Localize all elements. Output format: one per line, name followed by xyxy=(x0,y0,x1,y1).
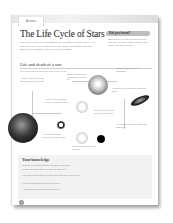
sun-like-star-icon xyxy=(76,101,88,113)
question-item: 1. Name the stage a star like our Sun wi… xyxy=(22,168,148,171)
textbook-page: Activities The Life Cycle of Stars Our S… xyxy=(12,15,158,205)
did-you-know-box: Did you know? Stars are born in vast clo… xyxy=(106,31,150,48)
diagram-caption: A supernova explosion blasts matter into… xyxy=(112,87,148,92)
diagram-caption: The white dwarf slowly cools and fades. xyxy=(72,145,98,150)
diagram-caption: Very massive stars may collapse into a b… xyxy=(116,123,148,128)
question-item: 4. Suggest why some stars form black hol… xyxy=(22,188,148,191)
diagram-caption: A red giant sheds outer layers leaving a… xyxy=(42,133,66,138)
diagram-caption: A star like our Sun shines steadily for … xyxy=(45,98,69,103)
your-knowledge-title: Your knowledge xyxy=(22,157,50,162)
section-title: Life and death of a star xyxy=(20,62,62,67)
page-number: 8 xyxy=(19,200,24,205)
your-knowledge-intro: Complete the activities using the inform… xyxy=(22,164,148,166)
did-you-know-body: Stars are born in vast clouds of gas and… xyxy=(106,36,150,48)
question-item: 2. Describe how the path of a massive st… xyxy=(22,174,148,177)
activities-tab[interactable]: Activities xyxy=(18,17,44,26)
diagram-caption: A nebula: a cloud of gas and dust collap… xyxy=(20,77,46,82)
nebula-star-icon xyxy=(8,113,38,143)
star-lifecycle-diagram: A nebula: a cloud of gas and dust collap… xyxy=(12,73,158,153)
diagram-caption: The remaining core may become a neutron … xyxy=(94,109,120,114)
black-hole-icon xyxy=(97,135,105,143)
page-title: The Life Cycle of Stars xyxy=(20,29,105,39)
question-item: 3. Explain what happens during a superno… xyxy=(22,182,148,185)
diagram-caption: Massive stars become red supergiants. xyxy=(116,67,144,72)
intro-paragraph: Our Sun will use up its hydrogen fuel in… xyxy=(20,41,98,52)
galaxy-icon xyxy=(129,93,150,108)
small-star-icon xyxy=(57,121,65,129)
supergiant-icon xyxy=(88,75,108,95)
diagram-caption: Smaller stars swell into red giants as f… xyxy=(67,73,89,81)
red-giant-icon xyxy=(76,132,88,144)
your-knowledge-box: Your knowledge Complete the activities u… xyxy=(18,155,152,199)
connector-line xyxy=(32,113,62,114)
